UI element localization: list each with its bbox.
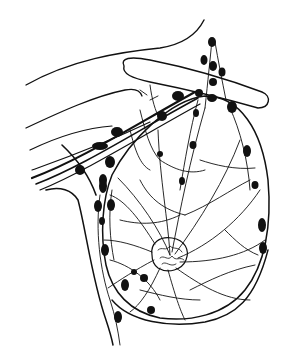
lymph-vessel	[178, 190, 260, 258]
lymph-vessel	[140, 90, 158, 100]
lymph-node	[147, 306, 155, 314]
lymph-node	[105, 156, 115, 168]
anatomical-outlines	[26, 20, 269, 345]
lymph-node	[94, 200, 102, 212]
lymph-vessel	[172, 108, 205, 252]
lymph-node	[92, 142, 108, 150]
lymph-vessel	[110, 195, 155, 244]
lymph-vessel	[120, 215, 180, 223]
lymph-node	[157, 111, 167, 121]
lymph-node	[252, 181, 259, 189]
lymph-node	[179, 177, 185, 185]
lymph-node	[219, 68, 226, 77]
lymph-node	[107, 199, 115, 211]
lymph-node	[140, 274, 148, 282]
lymph-vessel	[168, 270, 185, 320]
lymph-node	[243, 145, 251, 157]
lymph-node	[195, 89, 203, 97]
lymph-vessel	[225, 230, 258, 255]
axillary-vessel-2	[36, 98, 198, 184]
lymph-node	[258, 218, 266, 232]
lymph-node	[172, 91, 184, 101]
lymph-node	[209, 78, 217, 86]
lymph-node	[99, 217, 105, 225]
lymph-node	[207, 94, 217, 102]
lymph-vessel	[160, 160, 205, 172]
lymph-node	[99, 179, 107, 193]
lymph-node	[201, 55, 208, 65]
lymph-node	[75, 165, 85, 175]
lymph-vessel	[110, 260, 160, 300]
arm-upper-contour	[26, 89, 142, 128]
anatomy-illustration	[0, 0, 289, 354]
lymph-vessel	[175, 140, 240, 254]
lymph-vessel	[185, 180, 250, 215]
breast-lower-fold	[112, 250, 268, 324]
lymph-node	[131, 269, 137, 275]
lymph-node	[157, 151, 163, 157]
lymph-node	[193, 109, 199, 117]
lymph-vessel	[140, 290, 200, 300]
lymph-node	[209, 61, 217, 71]
lymph-node	[121, 279, 129, 291]
lymph-vessel	[158, 130, 170, 255]
lymphatic-diagram	[0, 0, 289, 354]
lymph-vessel	[108, 260, 154, 288]
lymph-node	[259, 242, 267, 254]
lymph-node	[101, 244, 109, 256]
lymph-node	[190, 141, 197, 149]
lymph-node	[114, 311, 122, 323]
lymph-vessel	[190, 265, 255, 290]
shoulder-contour	[26, 20, 204, 85]
lymph-node	[208, 37, 216, 47]
lymph-vessel	[176, 268, 250, 300]
lymph-node	[227, 101, 237, 113]
clavicle	[123, 58, 268, 108]
lymph-node	[111, 127, 123, 137]
